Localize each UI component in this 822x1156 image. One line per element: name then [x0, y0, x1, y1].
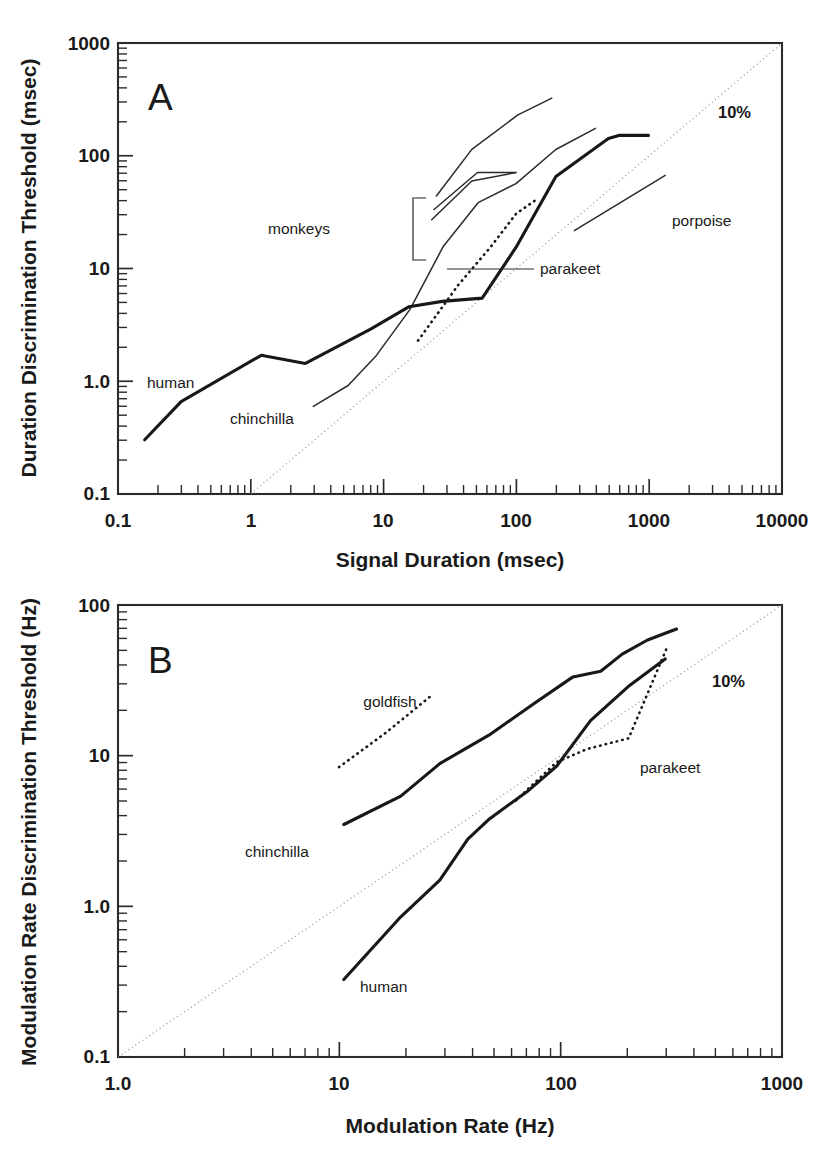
panel-b-y-tick-100: 100	[78, 595, 110, 616]
panel-b-tick-marks	[118, 605, 782, 1057]
panel-a-label-porpoise: porpoise	[672, 212, 731, 229]
panel-b-label-10pct: 10%	[712, 672, 745, 690]
panel-a-y-tick-100: 100	[78, 145, 110, 166]
panel-a-series-monkeys-2	[432, 173, 516, 220]
panel-b-x-tick-100: 100	[545, 1073, 577, 1094]
panel-b-label-goldfish: goldfish	[363, 693, 416, 710]
panel-b-reference-line-10pct	[118, 605, 782, 1057]
panel-a-y-tick-10: 10	[89, 258, 110, 279]
panel-a-monkeys-bracket	[413, 198, 426, 260]
figure-root: Duration Discrimination Threshold (msec)…	[0, 0, 822, 1156]
panel-a-x-tick-10000: 10000	[756, 510, 809, 531]
panel-b-x-tick-1: 1.0	[105, 1073, 131, 1094]
panel-a-series-monkeys-3	[436, 98, 551, 196]
panel-a-label-10pct: 10%	[718, 103, 751, 121]
panel-a-letter: A	[148, 77, 173, 118]
panel-a-label-human: human	[147, 374, 194, 391]
panel-a-label-parakeet: parakeet	[540, 260, 601, 277]
panel-a-y-axis-title: Duration Discrimination Threshold (msec)	[17, 59, 40, 478]
panel-a-series-porpoise	[574, 175, 665, 230]
panel-b-y-tick-01: 0.1	[84, 1046, 111, 1067]
panel-a-y-tick-01: 0.1	[84, 483, 111, 504]
panel-b-label-human: human	[360, 978, 407, 995]
panel-a-x-tick-1000: 1000	[628, 510, 670, 531]
panel-b-x-tick-1000: 1000	[761, 1073, 803, 1094]
panel-a-label-monkeys: monkeys	[268, 220, 330, 237]
panel-a-y-tick-1: 1.0	[84, 371, 110, 392]
panel-b-y-tick-1: 1.0	[84, 896, 110, 917]
panel-a-label-chinchilla: chinchilla	[230, 410, 294, 427]
panel-b-plot-frame	[118, 605, 782, 1057]
panel-b-series-parakeet	[516, 646, 668, 801]
panel-a-x-tick-1: 1	[246, 510, 257, 531]
panel-a-chart: Duration Discrimination Threshold (msec)…	[0, 0, 822, 580]
panel-b-label-chinchilla: chinchilla	[245, 843, 309, 860]
panel-a-x-tick-10: 10	[372, 510, 393, 531]
panel-b-x-axis-title: Modulation Rate (Hz)	[346, 1114, 555, 1137]
panel-a-series-monkeys-1	[434, 173, 516, 210]
panel-b-label-parakeet: parakeet	[640, 759, 701, 776]
panel-b-chart: Modulation Rate Discrimination Threshold…	[0, 570, 822, 1156]
panel-b-x-tick-10: 10	[328, 1073, 349, 1094]
panel-a-x-axis-title: Signal Duration (msec)	[336, 548, 565, 571]
panel-b-letter: B	[148, 640, 173, 681]
panel-a-series-human	[145, 135, 649, 439]
panel-a-x-tick-100: 100	[500, 510, 532, 531]
panel-a-x-tick-01: 0.1	[105, 510, 132, 531]
panel-a-y-tick-1000: 1000	[68, 33, 110, 54]
panel-b-y-axis-title: Modulation Rate Discrimination Threshold…	[17, 598, 40, 1066]
panel-b-y-tick-10: 10	[89, 745, 110, 766]
